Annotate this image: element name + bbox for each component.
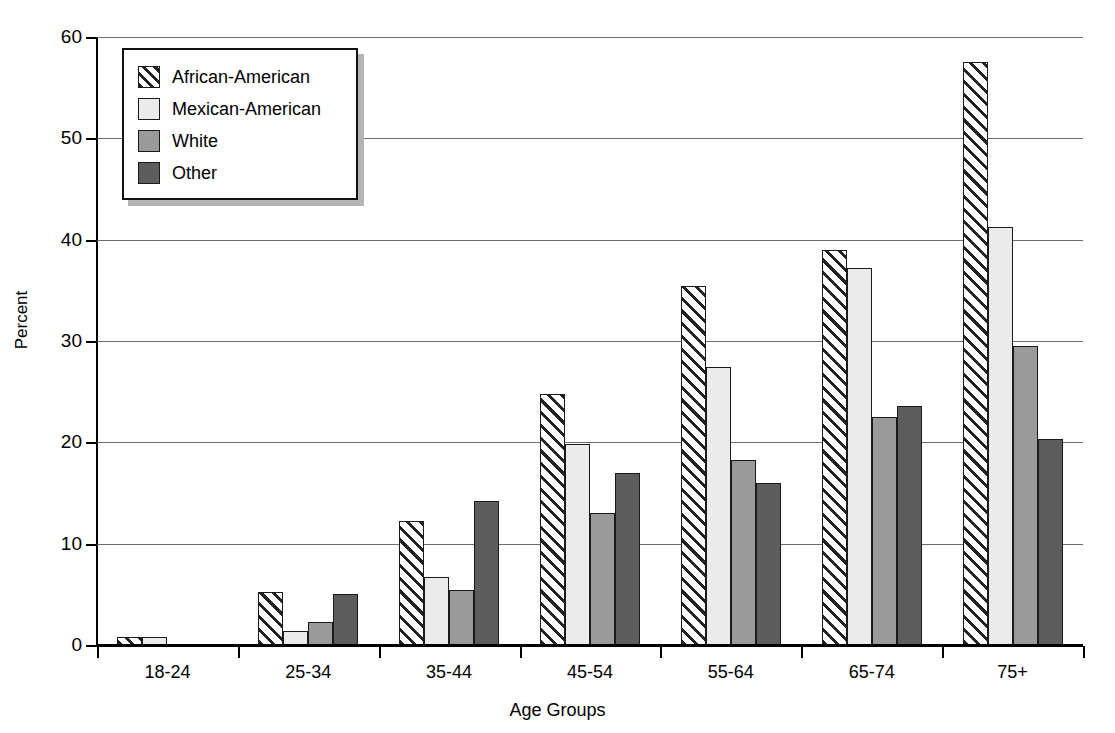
x-tick-label-35-44: 35-44 (379, 662, 520, 683)
x-tick-label-65-74: 65-74 (801, 662, 942, 683)
x-tick-0 (97, 646, 99, 658)
legend-swatch-icon (138, 98, 160, 120)
bar-45-54-other (615, 473, 640, 645)
legend-swatch-icon (138, 66, 160, 88)
legend-label: Mexican-American (172, 100, 321, 118)
x-tick-label-75+: 75+ (942, 662, 1083, 683)
bar-35-44-african-american (399, 521, 424, 645)
legend-label: Other (172, 164, 217, 182)
x-tick-5 (801, 646, 803, 658)
bar-35-44-other (474, 501, 499, 645)
legend-swatch-icon (138, 130, 160, 152)
y-tick-10 (86, 544, 97, 546)
y-tick-60 (86, 37, 97, 39)
x-tick-6 (942, 646, 944, 658)
bar-45-54-mexican-american (565, 444, 590, 645)
bar-45-54-white (590, 513, 615, 645)
bar-group-55-64 (660, 37, 801, 645)
chart-figure: 0102030405060 Percent 18-2425-3435-4445-… (0, 0, 1115, 733)
bar-75+-mexican-american (988, 227, 1013, 646)
y-tick-30 (86, 341, 97, 343)
bar-25-34-mexican-american (283, 631, 308, 645)
y-tick-50 (86, 138, 97, 140)
chart-legend: African-AmericanMexican-AmericanWhiteOth… (122, 48, 358, 200)
bar-65-74-other (897, 406, 922, 645)
y-tick-0 (86, 645, 97, 647)
bar-75+-african-american (963, 62, 988, 645)
y-axis-title: Percent (12, 270, 32, 370)
bar-group-45-54 (520, 37, 661, 645)
bar-75+-other (1038, 439, 1063, 645)
bar-65-74-white (872, 417, 897, 645)
bar-25-34-african-american (258, 592, 283, 645)
y-tick-label-0: 0 (36, 635, 82, 654)
y-tick-label-40: 40 (36, 230, 82, 249)
legend-swatch-icon (138, 162, 160, 184)
x-tick-label-18-24: 18-24 (97, 662, 238, 683)
y-tick-label-60: 60 (36, 27, 82, 46)
y-tick-label-10: 10 (36, 534, 82, 553)
x-tick-1 (238, 646, 240, 658)
x-tick-label-55-64: 55-64 (660, 662, 801, 683)
x-axis-line (97, 644, 1083, 647)
x-axis-title: Age Groups (0, 700, 1115, 721)
bar-35-44-white (449, 590, 474, 645)
bar-65-74-mexican-american (847, 268, 872, 645)
y-tick-40 (86, 240, 97, 242)
bar-55-64-other (756, 483, 781, 645)
bar-55-64-white (731, 460, 756, 645)
bar-group-75+ (942, 37, 1083, 645)
x-tick-7 (1083, 646, 1085, 658)
x-tick-label-25-34: 25-34 (238, 662, 379, 683)
y-tick-label-20: 20 (36, 432, 82, 451)
bar-65-74-african-american (822, 250, 847, 645)
bar-55-64-mexican-american (706, 367, 731, 645)
legend-label: African-American (172, 68, 310, 86)
bar-55-64-african-american (681, 286, 706, 645)
y-axis-tick-labels: 0102030405060 (26, 0, 82, 733)
y-tick-label-30: 30 (36, 331, 82, 350)
legend-item-african-american: African-American (138, 61, 356, 93)
legend-item-other: Other (138, 157, 356, 189)
x-tick-label-45-54: 45-54 (520, 662, 661, 683)
y-tick-20 (86, 442, 97, 444)
bar-45-54-african-american (540, 394, 565, 645)
bar-35-44-mexican-american (424, 577, 449, 645)
x-tick-4 (660, 646, 662, 658)
legend-item-mexican-american: Mexican-American (138, 93, 356, 125)
legend-item-white: White (138, 125, 356, 157)
bar-25-34-white (308, 622, 333, 645)
x-tick-2 (379, 646, 381, 658)
legend-label: White (172, 132, 218, 150)
bar-group-35-44 (379, 37, 520, 645)
bar-group-65-74 (801, 37, 942, 645)
x-tick-3 (520, 646, 522, 658)
y-tick-label-50: 50 (36, 128, 82, 147)
bar-75+-white (1013, 346, 1038, 645)
bar-25-34-other (333, 594, 358, 645)
